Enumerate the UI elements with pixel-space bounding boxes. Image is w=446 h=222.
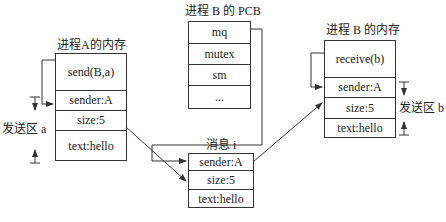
text-cell: text:hello <box>325 118 395 138</box>
sm-cell: sm <box>189 64 250 85</box>
process-b-memory-box: receive(b) sender:A size:5 text:hello <box>324 40 396 138</box>
mutex-cell: mutex <box>189 43 250 64</box>
send-area-a-label: 发送区 a <box>2 122 46 136</box>
process-b-pcb-box: mq mutex sm ... <box>188 21 251 109</box>
text-cell: text:hello <box>56 130 126 161</box>
sender-cell: sender:A <box>325 77 395 97</box>
process-a-memory-title: 进程A的内存 <box>57 38 126 52</box>
send-area-b-label: 发送区 b <box>399 101 444 115</box>
message-box: sender:A size:5 text:hello <box>188 153 254 208</box>
size-cell: size:5 <box>56 110 126 130</box>
size-cell: size:5 <box>325 97 395 118</box>
message-sender-cell: sender:A <box>189 154 253 170</box>
message-text-cell: text:hello <box>189 189 253 208</box>
process-a-memory-box: send(B,a) sender:A size:5 text:hello <box>55 53 127 161</box>
send-call-cell: send(B,a) <box>56 54 126 90</box>
message-size-cell: size:5 <box>189 170 253 189</box>
ellipsis-cell: ... <box>189 85 250 109</box>
receive-call-cell: receive(b) <box>325 41 395 77</box>
message-title: 消息 i <box>206 138 236 152</box>
process-b-pcb-title: 进程 B 的 PCB <box>185 4 261 18</box>
sender-cell: sender:A <box>56 90 126 110</box>
mq-cell: mq <box>189 22 250 43</box>
process-b-memory-title: 进程 B 的内存 <box>326 23 400 37</box>
